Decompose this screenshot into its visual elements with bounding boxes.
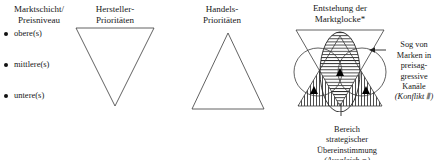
- leader-arrow-icon: [369, 47, 375, 53]
- upright-triangle-shape: [192, 33, 264, 109]
- column-heading-market-layer: Marktschicht/ Preisniveau: [0, 4, 78, 25]
- trade-triangle-figure: [188, 30, 268, 112]
- pull-note: Sog von Marken in preisag- gressive Kanä…: [382, 30, 446, 103]
- list-item: obere(s): [4, 28, 84, 59]
- bullet-dot-icon: [4, 94, 8, 98]
- list-item-label: mittlere(s): [14, 59, 49, 70]
- alignment-note-text: Bereich strategischer Übereinstimmung: [317, 125, 377, 155]
- column-heading-trade: Handels- Prioritäten: [176, 4, 268, 25]
- market-layer-list: obere(s) mittlere(s) untere(s): [4, 28, 84, 121]
- alignment-note: Bereich strategischer Übereinstimmung (A…: [288, 114, 406, 160]
- pull-note-legend: (Konflikt ⦀): [395, 92, 433, 101]
- list-item: untere(s): [4, 90, 84, 121]
- bullet-dot-icon: [4, 32, 8, 36]
- alignment-note-legend: (Ausgleich ≡): [324, 156, 370, 160]
- manufacturer-triangle-figure: [74, 26, 156, 110]
- bullet-dot-icon: [4, 63, 8, 67]
- inverted-triangle-shape: [76, 28, 154, 106]
- column-heading-manufacturer: Hersteller- Prioritäten: [78, 4, 152, 25]
- list-item: mittlere(s): [4, 59, 84, 90]
- list-item-label: obere(s): [14, 28, 42, 39]
- list-item-label: untere(s): [14, 90, 44, 101]
- pull-note-text: Sog von Marken in preisag- gressive Kanä…: [397, 40, 431, 91]
- column-heading-market-bell: Entstehung der Marktglocke*: [292, 3, 388, 24]
- market-bell-figure: [292, 26, 388, 112]
